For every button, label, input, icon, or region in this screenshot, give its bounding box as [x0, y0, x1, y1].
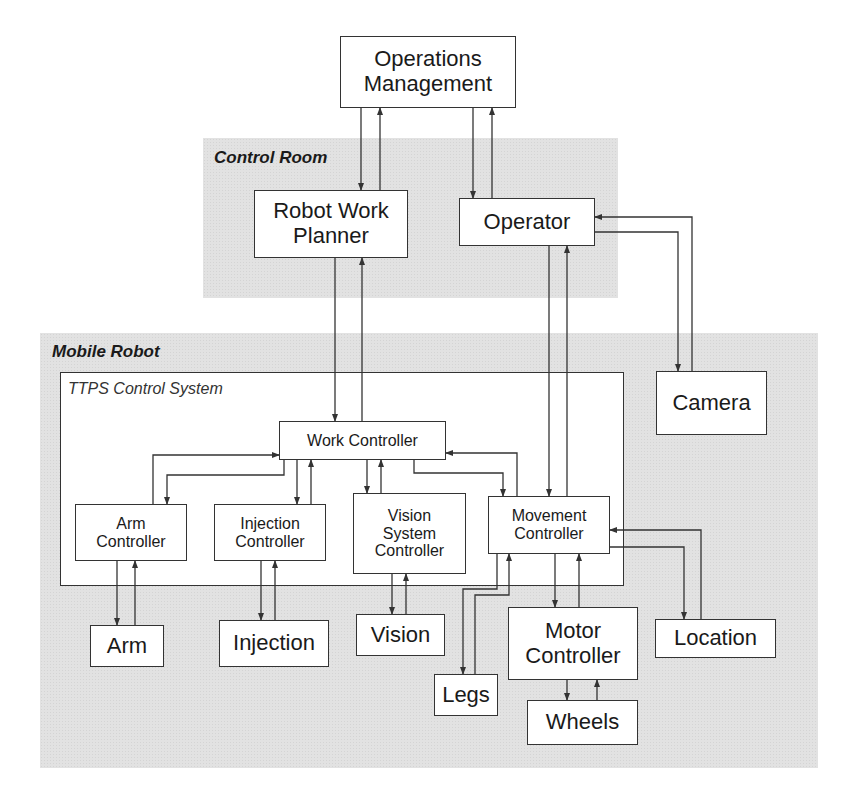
- location-node: Location: [655, 619, 776, 658]
- movement-controller-node: Movement Controller: [488, 496, 610, 554]
- motor-controller-node: Motor Controller: [508, 607, 638, 680]
- operator-node: Operator: [459, 198, 595, 246]
- arm-controller-node: Arm Controller: [75, 504, 187, 561]
- vision-system-controller-node: Vision System Controller: [353, 493, 466, 574]
- camera-node: Camera: [656, 371, 767, 435]
- operations-management-node: Operations Management: [340, 36, 516, 108]
- work-controller-node: Work Controller: [279, 421, 446, 460]
- vision-node: Vision: [356, 614, 445, 656]
- robot-work-planner-node: Robot Work Planner: [254, 190, 408, 258]
- legs-node: Legs: [434, 674, 498, 716]
- mobile-robot-label: Mobile Robot: [52, 342, 160, 362]
- control-room-label: Control Room: [214, 148, 327, 168]
- wheels-node: Wheels: [527, 700, 638, 745]
- injection-controller-node: Injection Controller: [214, 504, 326, 561]
- arm-node: Arm: [90, 625, 164, 667]
- injection-node: Injection: [219, 620, 329, 667]
- ttps-control-system-label: TTPS Control System: [68, 380, 223, 398]
- ttps-architecture-diagram: Control Room Mobile Robot TTPS Control S…: [0, 0, 855, 793]
